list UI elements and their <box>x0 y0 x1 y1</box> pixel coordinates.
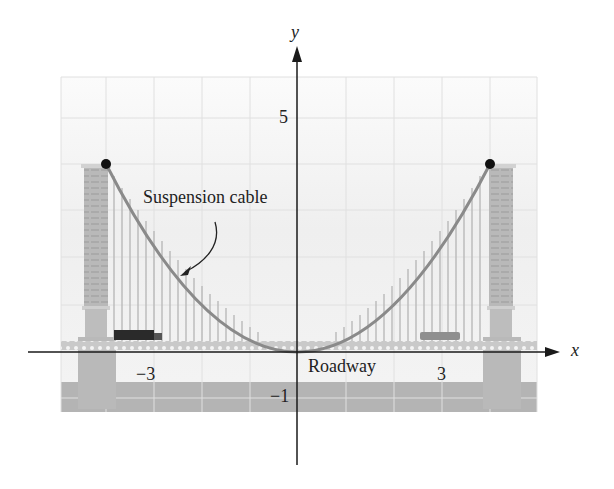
water-band <box>61 382 537 412</box>
y-tick-5: 5 <box>279 107 288 128</box>
left-tower-top-point <box>101 159 111 169</box>
suspension-cable-label: Suspension cable <box>143 187 267 208</box>
x-axis-arrow-icon <box>545 347 560 357</box>
y-axis-label: y <box>291 22 299 43</box>
car-vehicle <box>420 332 460 340</box>
x-tick-3: 3 <box>437 364 446 385</box>
y-tick-neg1: −1 <box>270 386 289 407</box>
y-axis-arrow-icon <box>292 46 302 62</box>
suspension-bridge-figure: y x 5 −1 −3 3 Suspension cable Roadway <box>0 0 614 489</box>
roadway-label: Roadway <box>308 356 376 377</box>
right-tower-top-point <box>485 159 495 169</box>
bridge-diagram-canvas <box>0 0 614 489</box>
x-axis-label: x <box>571 340 579 361</box>
x-tick-neg3: −3 <box>136 364 155 385</box>
roadway-deck <box>61 341 537 350</box>
